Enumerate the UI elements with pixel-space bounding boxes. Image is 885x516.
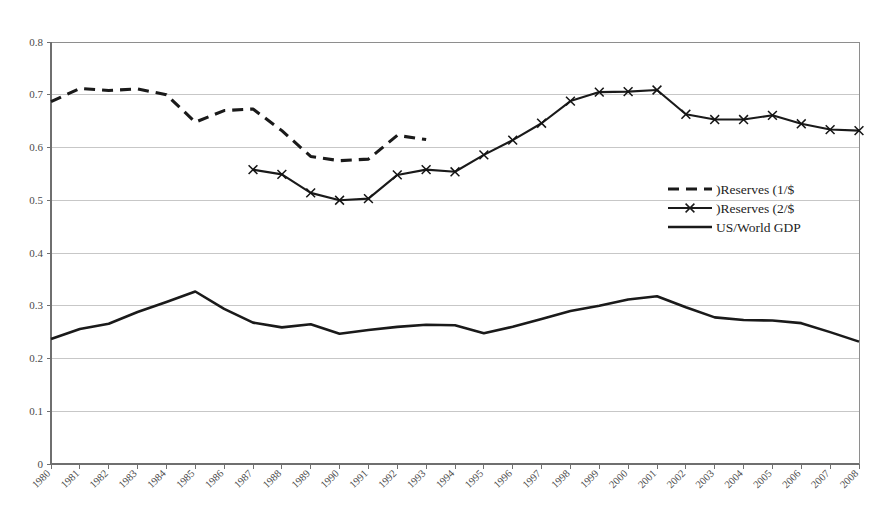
x-tick-label: 1997 (520, 468, 543, 491)
legend-label: )Reserves (1/$ (716, 182, 795, 197)
y-tick-label: 0.4 (29, 247, 43, 259)
x-tick-label: 1999 (578, 468, 601, 491)
x-tick-label: 2000 (607, 468, 630, 491)
y-tick-label: 0.3 (29, 299, 43, 311)
x-axis: 1980198119821983198419851986198719881989… (30, 464, 861, 490)
x-tick-label: 2008 (838, 468, 861, 491)
x-tick-label: 1986 (203, 468, 226, 491)
x-tick-label: 1991 (347, 468, 370, 491)
x-tick-label: 1996 (492, 468, 515, 491)
y-tick-label: 0.1 (29, 405, 43, 417)
y-tick-label: 0.8 (29, 36, 43, 48)
x-tick-label: 1990 (318, 468, 341, 491)
x-tick-label: 2002 (665, 468, 688, 491)
y-tick-label: 0.2 (29, 352, 43, 364)
x-tick-label: 1989 (290, 468, 313, 491)
x-tick-label: 2003 (694, 468, 717, 491)
y-tick-label: 0.7 (29, 88, 43, 100)
x-tick-label: 1998 (549, 468, 572, 491)
x-tick-label: 1980 (30, 468, 53, 491)
x-tick-label: 1994 (434, 467, 457, 490)
legend-label: US/World GDP (716, 220, 801, 235)
x-tick-label: 2006 (780, 468, 803, 491)
y-tick-label: 0.6 (29, 141, 43, 153)
x-tick-label: 1988 (261, 468, 284, 491)
chart-legend: )Reserves (1/$)Reserves (2/$US/World GDP (668, 182, 801, 235)
x-tick-label: 2007 (809, 468, 832, 491)
y-tick-label: 0 (38, 458, 44, 470)
x-tick-label: 1985 (174, 468, 197, 491)
x-tick-label: 1981 (59, 468, 82, 491)
x-tick-label: 2005 (751, 468, 774, 491)
x-tick-label: 2004 (722, 467, 745, 490)
chart-container: 00.10.20.30.40.50.60.70.8 19801981198219… (0, 0, 885, 516)
y-tick-label: 0.5 (29, 194, 43, 206)
x-tick-label: 1993 (405, 468, 428, 491)
line-chart: 00.10.20.30.40.50.60.70.8 19801981198219… (0, 0, 885, 516)
x-tick-label: 2001 (636, 468, 659, 491)
x-tick-label: 1984 (145, 467, 168, 490)
x-tick-label: 1982 (88, 468, 111, 491)
x-tick-label: 1995 (463, 468, 486, 491)
x-tick-label: 1987 (232, 468, 255, 491)
y-axis: 00.10.20.30.40.50.60.70.8 (29, 36, 51, 470)
legend-label: )Reserves (2/$ (716, 201, 795, 216)
x-tick-label: 1983 (116, 468, 139, 491)
x-tick-label: 1992 (376, 468, 399, 491)
